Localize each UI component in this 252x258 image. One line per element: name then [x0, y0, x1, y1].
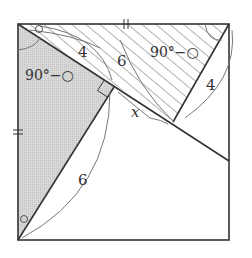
label-angle-right: 90°−○ [150, 44, 199, 60]
label-4-right: 4 [206, 76, 216, 94]
geometry-diagram: 4 6 90°−○ 90°−○ 4 x 6 [0, 0, 252, 258]
label-angle-left: 90°−○ [25, 67, 74, 83]
label-x: x [131, 103, 140, 121]
label-6-bottom: 6 [78, 171, 88, 189]
label-6-top: 6 [117, 52, 127, 70]
label-4-top: 4 [78, 43, 88, 61]
